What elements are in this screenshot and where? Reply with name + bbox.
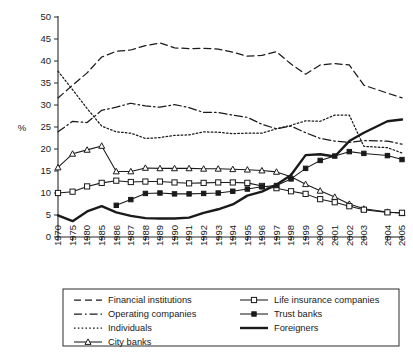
data-point-marker	[186, 181, 191, 186]
y-axis-title: %	[18, 122, 27, 133]
x-axis-tick-label: 1991	[183, 225, 194, 246]
data-point-marker	[399, 210, 404, 215]
y-axis-tick-label: 5	[46, 209, 51, 220]
data-point-marker	[70, 189, 75, 194]
data-point-marker	[251, 297, 256, 302]
data-point-marker	[99, 180, 104, 185]
x-axis-tick-label: 2003	[358, 225, 369, 246]
x-axis-tick-label: 1993	[213, 225, 224, 246]
x-axis-tick-label: 1986	[111, 225, 122, 246]
x-axis-tick-label: 2005	[396, 225, 407, 246]
data-point-marker	[55, 190, 60, 195]
legend-item-label: City banks	[108, 337, 152, 347]
x-axis-tick-label: 1988	[140, 225, 151, 246]
chart-legend: Financial institutionsLife insurance com…	[63, 289, 399, 347]
data-point-marker	[318, 158, 322, 162]
x-axis-tick-label: 1980	[81, 225, 92, 246]
data-point-marker	[347, 149, 351, 153]
x-axis-tick-label: 2004	[382, 225, 393, 246]
data-point-marker	[143, 191, 147, 195]
data-point-marker	[252, 312, 256, 316]
data-point-marker	[362, 151, 366, 155]
data-point-marker	[303, 166, 307, 170]
data-point-marker	[385, 210, 390, 215]
data-point-marker	[318, 197, 323, 202]
x-axis-tick-label: 1989	[154, 225, 165, 246]
y-axis-tick-label: 30	[40, 99, 51, 110]
data-point-marker	[143, 179, 148, 184]
x-axis-tick-label: 2000	[314, 225, 325, 246]
x-axis-tick-label: 1996	[256, 225, 267, 246]
data-point-marker	[129, 197, 133, 201]
x-axis-tick-label: 1997	[271, 225, 282, 246]
y-axis-tick-label: 35	[40, 77, 51, 88]
data-point-marker	[201, 180, 206, 185]
y-axis-tick-label: 0	[46, 231, 51, 242]
x-axis-tick-label: 2002	[344, 225, 355, 246]
data-point-marker	[303, 191, 308, 196]
data-point-marker	[114, 178, 119, 183]
data-point-marker	[216, 191, 220, 195]
legend-item-label: Foreigners	[274, 323, 319, 333]
y-axis-tick-label: 10	[40, 187, 51, 198]
data-point-marker	[85, 184, 90, 189]
y-axis-tick-label: 15	[40, 165, 51, 176]
y-axis-tick-label: 50	[40, 11, 51, 22]
legend-item-label: Financial institutions	[108, 295, 192, 305]
x-axis-tick-label: 1970	[52, 225, 63, 246]
data-point-marker	[128, 179, 133, 184]
x-axis-tick-label: 1975	[67, 225, 78, 246]
data-point-marker	[230, 180, 235, 185]
share-of-stock-ownership-line-chart: 05101520253035404550 1970197519801985198…	[0, 0, 413, 356]
data-point-marker	[332, 200, 337, 205]
legend-item-label: Individuals	[108, 323, 152, 333]
y-axis-tick-label: 20	[40, 143, 51, 154]
y-axis-tick-label: 45	[40, 33, 51, 44]
data-point-marker	[172, 180, 177, 185]
data-point-marker	[361, 207, 366, 212]
x-axis-tick-label: 1999	[300, 225, 311, 246]
data-point-marker	[385, 153, 389, 157]
legend-item-label: Operating companies	[108, 309, 197, 319]
data-point-marker	[158, 191, 162, 195]
data-point-marker	[400, 157, 404, 161]
data-point-marker	[347, 204, 352, 209]
data-point-marker	[231, 189, 235, 193]
x-axis-tick-label: 2001	[329, 225, 340, 246]
data-point-marker	[216, 180, 221, 185]
chart-figure: 05101520253035404550 1970197519801985198…	[0, 0, 413, 356]
x-axis-tick-label: 1994	[227, 225, 238, 246]
data-point-marker	[114, 203, 118, 207]
legend-item-label: Life insurance companies	[274, 295, 380, 305]
data-point-marker	[172, 192, 176, 196]
data-point-marker	[201, 191, 205, 195]
x-axis-tick-label: 1998	[285, 225, 296, 246]
y-axis-tick-label: 25	[40, 121, 51, 132]
data-point-marker	[288, 189, 293, 194]
data-point-marker	[260, 185, 264, 189]
data-point-marker	[187, 192, 191, 196]
x-axis-tick-label: 1990	[169, 225, 180, 246]
data-point-marker	[245, 187, 249, 191]
data-point-marker	[157, 179, 162, 184]
legend-item-label: Trust banks	[274, 309, 323, 319]
y-axis-tick-label: 40	[40, 55, 51, 66]
x-axis-tick-label: 1985	[96, 225, 107, 246]
x-axis: 1970197519801985198619871988198919901991…	[52, 225, 407, 246]
data-point-marker	[245, 180, 250, 185]
x-axis-tick-label: 1995	[242, 225, 253, 246]
x-axis-tick-label: 1992	[198, 225, 209, 246]
x-axis-tick-label: 1987	[125, 225, 136, 246]
